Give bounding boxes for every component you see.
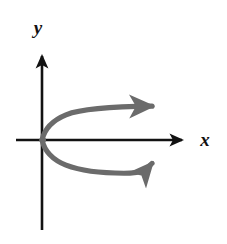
parabola-diagram: y x xyxy=(0,0,227,244)
figure-canvas: y x xyxy=(0,0,227,244)
parabola-vertex xyxy=(40,137,46,143)
x-axis-label: x xyxy=(199,129,210,150)
y-axis-label: y xyxy=(32,17,43,38)
